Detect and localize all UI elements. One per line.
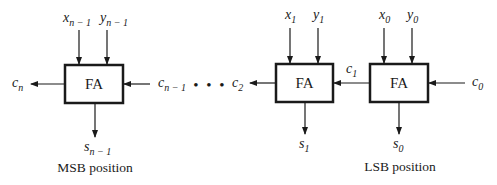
label-c1: c1: [346, 61, 357, 79]
fa-label: FA: [390, 75, 408, 91]
label-x-msb: xn − 1: [62, 10, 91, 28]
label-s-msb: sn − 1: [84, 139, 111, 157]
label-y-msb: yn − 1: [98, 10, 128, 28]
caption-msb: MSB position: [57, 160, 133, 175]
ellipsis-dots: • • •: [193, 77, 226, 93]
label-s1: s1: [299, 136, 309, 154]
ripple-carry-adder-diagram: FA xn − 1 yn − 1 cn cn − 1 sn − 1 MSB po…: [0, 0, 497, 185]
label-x0: x0: [378, 7, 390, 25]
fa-block-msb: FA: [65, 65, 123, 103]
fa-label: FA: [85, 76, 103, 92]
caption-lsb: LSB position: [364, 159, 436, 174]
fa-block-bit1: FA: [276, 64, 333, 102]
label-c2: c2: [232, 75, 243, 93]
label-y0: y0: [405, 7, 418, 25]
label-x1: x1: [284, 7, 296, 25]
label-c0: c0: [472, 74, 483, 92]
label-cn-1: cn − 1: [158, 75, 186, 93]
label-s0: s0: [393, 136, 403, 154]
fa-label: FA: [295, 75, 313, 91]
label-cn: cn: [12, 75, 23, 93]
label-y1: y1: [311, 7, 324, 25]
fa-block-lsb: FA: [370, 64, 428, 102]
